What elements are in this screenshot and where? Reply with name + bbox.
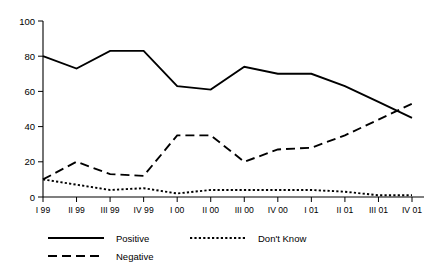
x-tick-label-11: IV 01: [402, 205, 422, 215]
y-tick-label-20: 20: [24, 156, 35, 167]
legend-label-positive: Positive: [116, 233, 149, 244]
x-axis-ticks: [43, 197, 412, 202]
data-series-group: [43, 51, 412, 195]
x-tick-label-2: III 99: [101, 205, 120, 215]
chart-canvas: 100 80 60 40 20 0 I 99II 99III 99IV 99I …: [0, 0, 440, 271]
y-tick-label-100: 100: [19, 16, 35, 27]
x-tick-label-5: II 00: [202, 205, 219, 215]
y-tick-label-80: 80: [24, 51, 35, 62]
x-tick-label-8: I 01: [304, 205, 319, 215]
series-line-don-t-know: [43, 179, 412, 195]
x-tick-label-6: III 00: [235, 205, 254, 215]
x-tick-label-4: I 00: [170, 205, 185, 215]
x-tick-label-10: III 01: [369, 205, 388, 215]
legend-label-negative: Negative: [116, 251, 154, 262]
x-tick-label-9: II 01: [337, 205, 354, 215]
y-axis-ticks: [38, 21, 43, 197]
y-axis-tick-labels: 100 80 60 40 20 0: [19, 16, 35, 203]
y-tick-label-40: 40: [24, 121, 35, 132]
x-tick-label-7: IV 00: [268, 205, 288, 215]
x-tick-label-1: II 99: [68, 205, 85, 215]
series-line-negative: [43, 104, 412, 180]
y-tick-label-60: 60: [24, 86, 35, 97]
x-tick-label-3: IV 99: [134, 205, 154, 215]
x-tick-label-0: I 99: [36, 205, 51, 215]
line-chart: 100 80 60 40 20 0 I 99II 99III 99IV 99I …: [0, 0, 440, 271]
series-line-positive: [43, 51, 412, 118]
chart-legend: Positive Don't Know Negative: [48, 233, 306, 262]
legend-label-dont-know: Don't Know: [258, 233, 306, 244]
x-axis-tick-labels: I 99II 99III 99IV 99I 00II 00III 00IV 00…: [36, 205, 422, 215]
y-tick-label-0: 0: [30, 192, 35, 203]
